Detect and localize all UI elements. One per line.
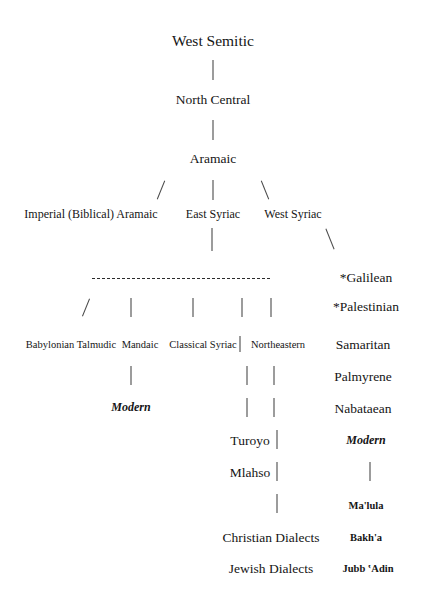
connector-west-syriac-to-galilean [325, 229, 334, 250]
connector-aramaic-to-imperial [157, 181, 165, 200]
node-malula: Ma'lula [348, 501, 383, 512]
node-north-central: North Central [176, 93, 251, 107]
connector-west-semitic-to-north-central [213, 60, 214, 80]
connector-turoyo-column [277, 430, 278, 449]
node-jewish-dialects: Jewish Dialects [229, 562, 313, 576]
connector-northeastern-down-left-2 [247, 398, 248, 417]
node-christian-dialects: Christian Dialects [222, 531, 319, 545]
connector-to-northeastern-left [242, 298, 243, 317]
connector-classical-syriac-northeastern-divider [240, 336, 241, 352]
node-west-semitic: West Semitic [172, 33, 254, 49]
connector-northeastern-down-right [274, 366, 275, 385]
node-bakha: Bakh'a [350, 533, 382, 544]
node-palestinian: *Palestinian [333, 300, 399, 314]
connector-to-christian-dialects [277, 494, 278, 513]
node-jubb-adin: Jubb ʽAdin [342, 564, 393, 575]
language-family-tree: West Semitic North Central Aramaic Imper… [0, 0, 423, 599]
node-samaritan: Samaritan [336, 338, 391, 352]
connector-northeastern-down-right-2 [274, 398, 275, 417]
node-classical-syriac: Classical Syriac [169, 340, 236, 351]
node-modern-left: Modern [111, 401, 150, 413]
node-palmyrene: Palmyrene [334, 370, 392, 384]
node-imperial-biblical-aramaic: Imperial (Biblical) Aramaic [24, 208, 157, 220]
node-babylonian-talmudic: Babylonian Talmudic [26, 340, 116, 351]
node-aramaic: Aramaic [190, 152, 236, 166]
node-modern-right: Modern [346, 434, 385, 446]
connector-aramaic-to-west-syriac [261, 181, 269, 200]
connector-to-northeastern-right [271, 298, 272, 317]
node-mandaic: Mandaic [122, 340, 159, 351]
connector-to-mandaic [131, 298, 132, 317]
node-east-syriac: East Syriac [186, 208, 240, 220]
connector-mlahso-column [277, 462, 278, 481]
connector-northeastern-down-left [247, 366, 248, 385]
node-galilean: *Galilean [340, 271, 392, 285]
node-northeastern: Northeastern [251, 340, 305, 351]
node-turoyo: Turoyo [230, 434, 269, 448]
node-nabataean: Nabataean [335, 402, 392, 416]
dashed-divider [92, 278, 270, 279]
connector-east-syriac-down [212, 228, 213, 251]
connector-to-babylonian-talmudic [82, 299, 90, 317]
connector-north-central-to-aramaic [213, 120, 214, 140]
connector-mandaic-to-modern [131, 366, 132, 385]
connector-to-classical-syriac [193, 298, 194, 317]
node-west-syriac: West Syriac [264, 208, 321, 220]
connector-aramaic-to-east-syriac [213, 180, 214, 200]
node-mlahso: Mlahso [230, 466, 271, 480]
connector-modern-right-down [370, 462, 371, 481]
